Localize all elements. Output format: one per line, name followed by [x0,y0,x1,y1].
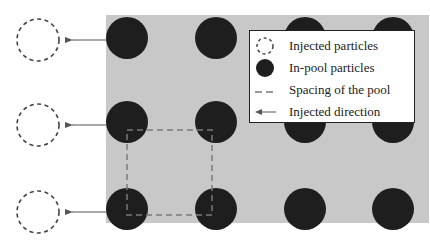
inpool-particle [372,188,414,230]
legend-label: Spacing of the pool [289,82,390,98]
legend-label: Injected direction [289,104,380,120]
inpool-particle [106,17,148,59]
injected-particle [17,104,59,146]
dashed-circle-icon [254,35,276,57]
filled-circle-icon [254,57,276,79]
arrow-left-icon [254,101,276,123]
legend-label: In-pool particles [289,60,375,76]
legend: Injected particles In-pool particles Spa… [249,30,415,123]
legend-label: Injected particles [289,38,378,54]
inpool-particle [284,188,326,230]
injected-particles [17,19,59,233]
injected-direction-arrows [72,40,106,212]
inpool-particle [195,17,237,59]
legend-item-injected: Injected particles [250,35,414,57]
legend-item-direction: Injected direction [250,101,414,123]
dashed-line-icon [254,79,276,101]
injected-particle [17,19,59,61]
inpool-particle [195,188,237,230]
legend-item-inpool: In-pool particles [250,57,414,79]
injected-particle [17,191,59,233]
inpool-particle [195,101,237,143]
legend-item-spacing: Spacing of the pool [250,79,414,101]
